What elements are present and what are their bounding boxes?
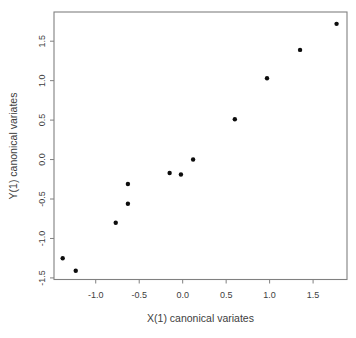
scatter-plot: -1.0-0.50.00.51.01.5 -1.5-1.0-0.50.00.51… (0, 0, 356, 338)
data-point (298, 48, 302, 52)
x-tick-label: -0.5 (131, 290, 147, 300)
x-tick-label: 0.0 (176, 290, 189, 300)
y-tick-label: 0.0 (37, 153, 47, 166)
data-point (167, 171, 171, 175)
y-tick-label: 1.5 (37, 35, 47, 48)
x-axis-label: X(1) canonical variates (147, 312, 254, 324)
scatter-plot-figure: -1.0-0.50.00.51.01.5 -1.5-1.0-0.50.00.51… (0, 0, 356, 338)
data-point (191, 157, 195, 161)
y-axis-ticks: -1.5-1.0-0.50.00.51.01.5 (37, 35, 54, 286)
x-tick-label: 1.5 (307, 290, 320, 300)
x-axis-ticks: -1.0-0.50.00.51.01.5 (88, 280, 319, 300)
data-point (265, 76, 269, 80)
data-points (60, 22, 338, 273)
y-axis-label: Y(1) canonical variates (7, 93, 19, 200)
y-tick-label: 1.0 (37, 74, 47, 87)
data-point (179, 172, 183, 176)
data-point (126, 202, 130, 206)
x-tick-label: 1.0 (263, 290, 276, 300)
plot-box (54, 12, 347, 280)
data-point (126, 182, 130, 186)
y-tick-label: 0.5 (37, 114, 47, 127)
data-point (233, 117, 237, 121)
x-tick-label: 0.5 (220, 290, 233, 300)
data-point (74, 269, 78, 273)
data-point (60, 256, 64, 260)
data-point (114, 220, 118, 224)
y-tick-label: -1.5 (37, 270, 47, 286)
y-tick-label: -1.0 (37, 231, 47, 247)
y-tick-label: -0.5 (37, 191, 47, 207)
data-point (334, 22, 338, 26)
x-tick-label: -1.0 (88, 290, 104, 300)
